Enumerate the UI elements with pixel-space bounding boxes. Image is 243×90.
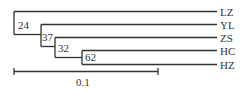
bootstrap-value-root: 24 <box>18 19 30 31</box>
taxon-label-yl: YL <box>220 19 235 31</box>
bootstrap-value-node3: 32 <box>58 42 69 54</box>
tree-branches <box>14 12 217 76</box>
taxon-label-hz: HZ <box>220 59 235 71</box>
bootstrap-value-node2: 37 <box>42 31 54 43</box>
bootstrap-value-node4: 62 <box>85 51 96 63</box>
phylogenetic-tree: LZ YL ZS HC HZ 24 37 32 62 0.1 <box>0 0 243 90</box>
taxon-label-lz: LZ <box>220 6 234 18</box>
taxon-label-hc: HC <box>220 45 235 57</box>
scale-bar-label: 0.1 <box>76 76 90 88</box>
taxon-label-zs: ZS <box>220 32 233 44</box>
